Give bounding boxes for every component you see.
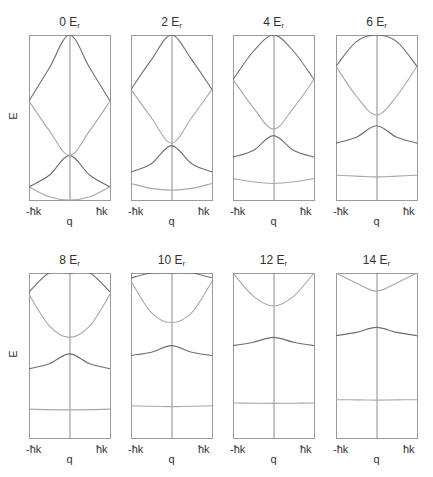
plot-canvas: [0, 0, 433, 477]
